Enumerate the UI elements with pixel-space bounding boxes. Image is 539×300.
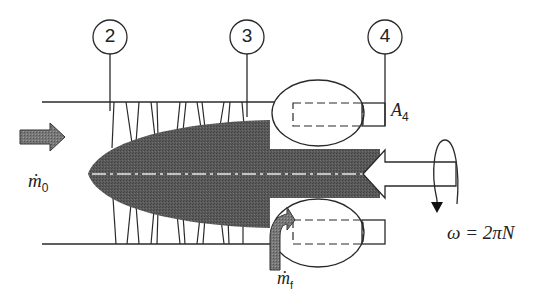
inlet-mass-flow-subscript: 0 xyxy=(42,181,49,195)
fuel-mass-flow-subscript: f xyxy=(290,279,293,291)
inlet-flow-arrow xyxy=(20,123,65,151)
fuel-mass-flow-symbol: ṁ xyxy=(277,268,290,288)
nozzle-area-label: A4 xyxy=(391,100,409,124)
angular-speed-label: ω = 2πN xyxy=(447,222,514,244)
combustor-bottom xyxy=(272,199,364,267)
combustor-top xyxy=(272,80,364,146)
station-4-label: 4 xyxy=(368,25,402,47)
inlet-mass-flow-label: ṁ0 xyxy=(28,170,48,195)
diagram-canvas xyxy=(0,0,539,300)
rotation-arrowhead-icon xyxy=(431,202,443,213)
nozzle-area-symbol: A xyxy=(391,100,402,120)
jet-engine-diagram: 2 3 4 A4 ṁ0 ṁf ω = 2πN xyxy=(0,0,539,300)
fuel-mass-flow-label: ṁf xyxy=(277,268,293,291)
station-2-label: 2 xyxy=(93,25,127,47)
station-3-label: 3 xyxy=(230,25,264,47)
nozzle-area-subscript: 4 xyxy=(402,110,409,124)
inlet-mass-flow-symbol: ṁ xyxy=(28,170,42,191)
